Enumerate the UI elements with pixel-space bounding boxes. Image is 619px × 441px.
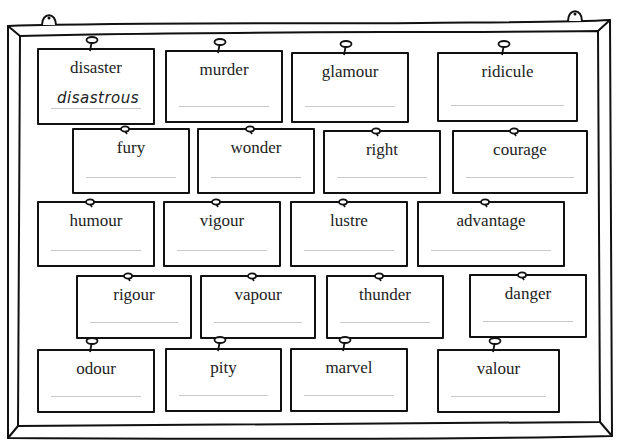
word-card-thunder: thunder <box>326 275 444 339</box>
word-card-odour: odour <box>37 349 155 413</box>
hanging-loop-left <box>42 15 56 25</box>
card-word: lustre <box>292 211 406 231</box>
card-word: courage <box>454 140 586 160</box>
pushpin-icon <box>84 36 100 52</box>
answer-line-input[interactable] <box>51 250 141 251</box>
word-card-humour: humour <box>37 201 155 267</box>
pushpin-icon <box>212 336 228 352</box>
card-word: disaster <box>39 58 153 78</box>
card-word: odour <box>39 359 153 379</box>
pushpin-icon <box>337 198 349 208</box>
card-word: danger <box>471 284 585 304</box>
card-word: rigour <box>78 285 190 305</box>
pushpin-icon <box>516 271 528 281</box>
word-card-courage: courage <box>452 130 588 194</box>
card-answer-text: disastrous <box>57 89 139 107</box>
word-card-murder: murder <box>165 50 283 123</box>
card-word: wonder <box>199 138 313 158</box>
word-card-valour: valour <box>437 349 560 413</box>
answer-line-input[interactable] <box>340 322 430 323</box>
answer-line-input[interactable] <box>305 106 395 107</box>
card-word: murder <box>167 60 281 80</box>
pushpin-icon <box>212 38 228 54</box>
word-card-wonder: wonder <box>197 128 315 194</box>
card-word: glamour <box>293 62 407 82</box>
card-word: valour <box>439 359 558 379</box>
word-card-glamour: glamour <box>291 52 409 123</box>
answer-line-input[interactable] <box>466 177 574 178</box>
pushpin-icon <box>337 336 353 352</box>
pushpin-icon <box>487 337 503 353</box>
word-card-advantage: advantage <box>417 201 565 267</box>
answer-line-input[interactable] <box>304 395 394 396</box>
answer-line-input[interactable] <box>431 250 551 251</box>
answer-line-input[interactable] <box>179 395 268 396</box>
word-card-lustre: lustre <box>290 201 408 267</box>
answer-line-input[interactable] <box>483 321 573 322</box>
answer-line-input[interactable] <box>86 177 176 178</box>
answer-line-input[interactable] <box>51 108 141 109</box>
card-word: humour <box>39 211 153 231</box>
word-card-vapour: vapour <box>200 275 316 339</box>
word-card-disaster: disasterdisastrous <box>37 48 155 125</box>
answer-line-input[interactable] <box>451 396 546 397</box>
word-card-marvel: marvel <box>290 348 408 412</box>
answer-line-input[interactable] <box>51 396 141 397</box>
card-word: pity <box>167 358 280 378</box>
pushpin-icon <box>244 125 256 135</box>
pushpin-icon <box>338 40 354 56</box>
word-card-ridicule: ridicule <box>437 52 578 122</box>
word-card-fury: fury <box>72 128 190 194</box>
card-word: ridicule <box>439 62 576 82</box>
word-card-pity: pity <box>165 348 282 412</box>
answer-line-input[interactable] <box>177 250 267 251</box>
answer-line-input[interactable] <box>451 105 564 106</box>
pushpin-icon <box>496 40 512 56</box>
word-card-right: right <box>323 130 441 194</box>
card-word: right <box>325 140 439 160</box>
card-word: fury <box>74 138 188 158</box>
answer-line-input[interactable] <box>211 177 301 178</box>
pushpin-icon <box>210 198 222 208</box>
answer-line-input[interactable] <box>337 177 427 178</box>
pushpin-icon <box>479 198 491 208</box>
card-word: thunder <box>328 285 442 305</box>
answer-line-input[interactable] <box>90 322 178 323</box>
answer-line-input[interactable] <box>179 106 269 107</box>
pushpin-icon <box>122 272 134 282</box>
card-word: vigour <box>165 211 279 231</box>
pushpin-icon <box>246 272 258 282</box>
card-word: advantage <box>419 211 563 231</box>
hanging-loop-right <box>568 11 582 21</box>
pushpin-icon <box>84 337 100 353</box>
answer-line-input[interactable] <box>304 250 394 251</box>
pushpin-icon <box>370 127 382 137</box>
card-word: vapour <box>202 285 314 305</box>
answer-line-input[interactable] <box>214 322 302 323</box>
pushpin-icon <box>508 127 520 137</box>
pushpin-icon <box>119 125 131 135</box>
word-card-danger: danger <box>469 274 587 338</box>
pushpin-icon <box>373 272 385 282</box>
word-card-rigour: rigour <box>76 275 192 339</box>
card-word: marvel <box>292 358 406 378</box>
pushpin-icon <box>84 198 96 208</box>
word-card-vigour: vigour <box>163 201 281 267</box>
